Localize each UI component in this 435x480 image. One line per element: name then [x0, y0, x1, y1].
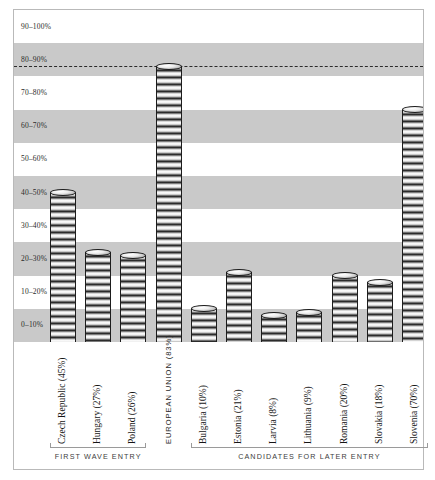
bar-0: [50, 193, 76, 342]
bar-cap-icon: [402, 106, 423, 113]
bar-cap-icon: [367, 279, 393, 286]
category-label-9: Slovakia (18%): [374, 344, 384, 444]
bar-cap-icon: [156, 63, 182, 70]
bar-3: [156, 66, 182, 342]
bar-cap-icon: [226, 269, 252, 276]
group-label-1: CANDIDATES FOR LATER ENTRY: [191, 452, 428, 461]
bar-1: [85, 252, 111, 342]
group-bracket-0: [50, 443, 146, 448]
bar-cap-icon: [261, 312, 287, 319]
bar-cap-icon: [50, 189, 76, 196]
group-bracket-1: [191, 443, 428, 448]
category-label-5: Estonia (21%): [233, 344, 243, 444]
bar-cap-icon: [332, 272, 358, 279]
bar-cap-icon: [85, 249, 111, 256]
bar-2: [120, 256, 146, 342]
chart-figure: 0–10%10–20%20–30%30–40%40–50%50–60%60–70…: [0, 0, 435, 480]
category-label-6: Larvia (8%): [268, 344, 278, 444]
category-label-7: Lithuania (9%): [303, 344, 313, 444]
bar-8: [332, 276, 358, 342]
bar-4: [191, 309, 217, 342]
bar-5: [226, 272, 252, 342]
category-label-1: Hungary (27%): [92, 344, 102, 444]
bar-7: [296, 312, 322, 342]
bar-cap-icon: [120, 252, 146, 259]
category-label-4: Bulgaria (10%): [198, 344, 208, 444]
category-labels: Czech Republic (45%)Hungary (27%)Poland …: [14, 344, 423, 444]
category-label-10: Slovenia (70%): [409, 344, 419, 444]
bar-cap-icon: [191, 305, 217, 312]
category-label-2: Poland (26%): [127, 344, 137, 444]
bar-10: [402, 110, 423, 342]
bar-cap-icon: [296, 309, 322, 316]
group-label-0: FIRST WAVE ENTRY: [50, 452, 146, 461]
category-label-3: EUROPEAN UNION (83%): [164, 344, 173, 444]
category-label-8: Romania (20%): [339, 344, 349, 444]
category-label-0: Czech Republic (45%): [57, 344, 67, 444]
bars-layer: [14, 10, 423, 342]
bar-6: [261, 315, 287, 342]
bar-9: [367, 282, 393, 342]
